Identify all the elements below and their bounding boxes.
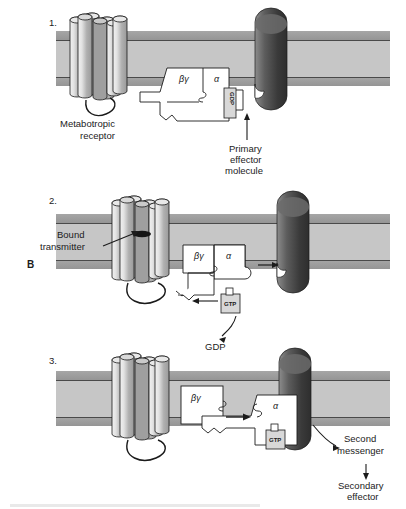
secondary-effector-label-line1: Secondary xyxy=(338,480,384,491)
figure-panel-b: 1. βγ α GDP xyxy=(0,0,406,509)
beta-gamma-label-1: βγ xyxy=(178,74,189,84)
bound-transmitter-label-line2: transmitter xyxy=(40,241,85,252)
alpha-label-1: α xyxy=(214,74,220,84)
second-messenger-label-line1: Second xyxy=(344,433,376,444)
metabotropic-receptor-label-line1: Metabotropic xyxy=(60,118,115,129)
gtp-label-2: GTP xyxy=(224,301,236,307)
primary-effector-label-line3: molecule xyxy=(225,165,263,176)
panel-letter-b: B xyxy=(27,259,34,270)
beta-gamma-label-3: βγ xyxy=(190,393,201,403)
second-messenger-label-line2: messenger xyxy=(337,445,384,456)
bound-transmitter-label-line1: Bound xyxy=(57,229,84,240)
primary-effector-molecule-2 xyxy=(277,191,309,293)
secondary-effector-label-line2: effector xyxy=(347,491,379,502)
alpha-label-2: α xyxy=(226,251,232,261)
gtp-label-3: GTP xyxy=(269,437,281,443)
primary-effector-molecule-1 xyxy=(255,8,287,110)
beta-gamma-label-2: βγ xyxy=(193,251,204,261)
step-2-number: 2. xyxy=(49,195,57,206)
primary-effector-label-line2: effector xyxy=(230,154,262,165)
primary-effector-label-line1: Primary xyxy=(229,143,262,154)
alpha-label-3: α xyxy=(273,401,279,411)
step-1-number: 1. xyxy=(49,17,57,28)
metabotropic-receptor-label-line2: receptor xyxy=(80,130,115,141)
gdp-label-1: GDP xyxy=(229,92,235,105)
released-gdp-label: GDP xyxy=(205,341,226,352)
cut-off-caption xyxy=(10,504,260,507)
step-3-number: 3. xyxy=(49,355,57,366)
